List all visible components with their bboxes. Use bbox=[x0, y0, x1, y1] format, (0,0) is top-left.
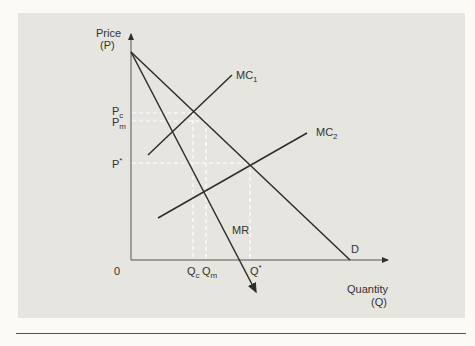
y-axis-label: Price bbox=[96, 27, 121, 39]
bottom-rule bbox=[16, 333, 466, 334]
pm-label: Pm bbox=[112, 116, 126, 128]
x-axis-symbol: (Q) bbox=[371, 296, 387, 308]
mc2-label: MC2 bbox=[316, 126, 338, 138]
x-axis-label: Quantity bbox=[347, 283, 388, 295]
guide-lines bbox=[132, 113, 250, 259]
y-axis-symbol: (P) bbox=[100, 39, 115, 51]
qstar-label: Q* bbox=[250, 265, 262, 277]
origin-label: 0 bbox=[114, 265, 120, 277]
mr-label: MR bbox=[232, 224, 249, 236]
mc1-label: MC1 bbox=[236, 69, 258, 81]
diagram-canvas bbox=[0, 0, 475, 346]
demand-label: D bbox=[351, 243, 359, 255]
qc-label: Qc bbox=[187, 265, 200, 277]
mc1-curve bbox=[148, 75, 232, 155]
qm-label: Qm bbox=[202, 265, 217, 277]
pstar-label: P* bbox=[112, 158, 122, 170]
